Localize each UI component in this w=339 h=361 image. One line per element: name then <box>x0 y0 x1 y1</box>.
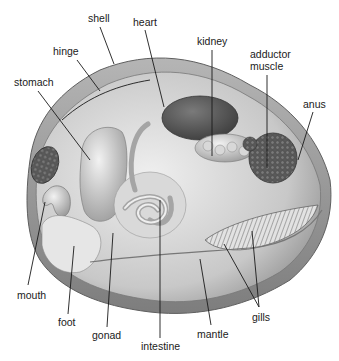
label-gonad: gonad <box>92 329 121 341</box>
shell-leader <box>100 27 114 64</box>
label-kidney: kidney <box>197 35 228 47</box>
label-hinge: hinge <box>53 45 79 57</box>
small-muscle <box>243 137 257 151</box>
label-intestine: intestine <box>141 340 180 352</box>
label-gills: gills <box>252 311 270 323</box>
label-adductor-line1: adductor <box>250 48 291 60</box>
label-anus: anus <box>303 98 326 110</box>
label-heart: heart <box>133 16 157 28</box>
heart-organ <box>162 96 238 140</box>
label-mantle: mantle <box>197 328 229 340</box>
label-shell: shell <box>88 12 110 24</box>
label-foot: foot <box>58 316 76 328</box>
clam-anatomy-diagram: shell heart hinge kidney adductor muscle… <box>0 0 339 361</box>
label-adductor-line2: muscle <box>250 60 283 72</box>
label-mouth: mouth <box>17 289 46 301</box>
label-stomach: stomach <box>14 76 54 88</box>
